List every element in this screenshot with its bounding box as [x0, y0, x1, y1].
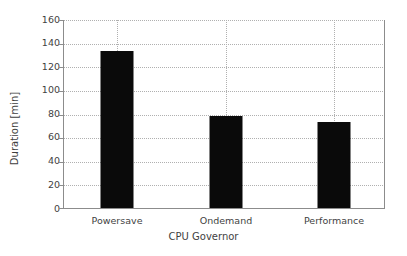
bar-performance [318, 122, 351, 208]
y-tick-label: 40 [48, 156, 60, 166]
gridline-horizontal [63, 44, 385, 45]
x-axis-spine [63, 208, 385, 209]
bar-ondemand [210, 116, 243, 208]
x-axis-title: CPU Governor [0, 231, 407, 242]
y-tick-label: 120 [42, 62, 60, 72]
right-spine [384, 20, 385, 209]
x-tick-label-ondemand: Ondemand [200, 215, 253, 226]
y-tick-label: 160 [42, 15, 60, 25]
y-tick-label: 100 [42, 85, 60, 95]
x-tick-label-performance: Performance [304, 215, 364, 226]
y-tick-label: 60 [48, 132, 60, 142]
x-tick-label-powersave: Powersave [92, 215, 143, 226]
y-axis-spine [63, 20, 64, 209]
y-tick-label: 140 [42, 38, 60, 48]
plot-area [63, 20, 385, 209]
bar-chart-figure: Duration [min] 160 140 120 100 80 60 40 … [0, 0, 407, 256]
y-axis-title: Duration [min] [8, 0, 22, 256]
gridline-horizontal [63, 20, 385, 21]
y-axis-title-text: Duration [min] [10, 91, 21, 164]
bar-powersave [101, 51, 134, 208]
